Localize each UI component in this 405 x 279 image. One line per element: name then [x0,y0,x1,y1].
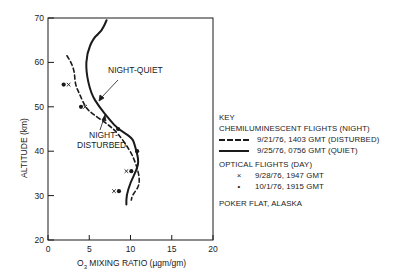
legend-item-quiet: 9/25/76, 0756 GMT (QUIET) [219,145,379,156]
dot-marker [62,83,66,87]
y-tick-label: 60 [35,57,45,67]
solid-line-icon [219,150,249,152]
disturbed-curve [67,56,139,200]
x-marker [112,189,116,193]
legend-item-disturbed: 9/21/76, 1403 GMT (DISTURBED) [219,134,379,145]
y-tick-label: 50 [35,102,45,112]
x-tick-label: 5 [87,244,92,254]
x-marker-icon: × [231,170,247,181]
x-axis-label: O3 MIXING RATIO (µgm/gm) [77,258,186,270]
y-axis-label: ALTITUDE (km) [19,118,29,178]
data-series [62,20,140,204]
annotation-night-disturbed-2: DISTURBED [77,140,126,150]
legend: KEY CHEMILUMINESCENT FLIGHTS (NIGHT) 9/2… [219,112,379,209]
dot-marker [129,169,133,173]
annotation-night-disturbed-1: NIGHT- [89,130,118,140]
legend-group-chemiluminescent: CHEMILUMINESCENT FLIGHTS (NIGHT) [219,123,379,134]
legend-location: POKER FLAT, ALASKA [219,198,379,209]
annotation-night-quiet: NIGHT-QUIET [108,65,163,75]
x-tick-label: 10 [126,244,136,254]
x-tick-label: 20 [208,244,218,254]
y-tick-label: 30 [35,191,45,201]
y-tick-label: 70 [35,13,45,23]
annotation-arrows [99,80,118,130]
quiet-curve [86,20,138,204]
plot-frame [48,18,213,240]
dashed-line-icon [219,139,249,141]
x-marker [67,83,71,87]
dot-marker [117,189,121,193]
dot-marker [135,149,139,153]
y-tick-label: 20 [35,235,45,245]
x-tick-label: 0 [46,244,51,254]
dot-marker-icon: • [231,181,247,192]
dot-marker [79,105,83,109]
legend-group-optical: OPTICAL FLIGHTS (DAY) [219,159,379,170]
legend-item-dot-marker: •10/1/76, 1915 GMT [219,181,379,192]
y-tick-label: 40 [35,146,45,156]
legend-key-title: KEY [219,112,379,123]
legend-item-x-marker: ×9/28/76, 1947 GMT [219,170,379,181]
x-marker [125,169,129,173]
x-tick-label: 15 [167,244,177,254]
